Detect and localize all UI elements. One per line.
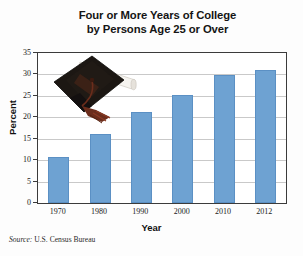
x-tick-label-2000: 2000 <box>159 207 205 216</box>
y-tick-label-25: 25 <box>4 90 31 99</box>
chart-title: Four or More Years of College by Persons… <box>30 8 285 36</box>
x-tick-label-1990: 1990 <box>117 207 163 216</box>
chart-figure: Four or More Years of College by Persons… <box>0 0 303 256</box>
source-prefix: Source: <box>9 235 32 244</box>
source-note: Source: U.S. Census Bureau <box>9 235 95 244</box>
y-tick-label-30: 30 <box>4 69 31 78</box>
y-tick <box>33 116 37 117</box>
bar-1990 <box>131 112 152 203</box>
bar-2010 <box>214 75 235 203</box>
y-tick-label-35: 35 <box>4 48 31 57</box>
bar-1970 <box>48 157 69 203</box>
bar-1980 <box>90 134 111 203</box>
chart-title-line-2: by Persons Age 25 or Over <box>30 22 285 36</box>
x-axis-label: Year <box>34 222 269 233</box>
bar-series <box>38 53 286 203</box>
x-tick-label-2010: 2010 <box>200 207 246 216</box>
y-tick-label-0: 0 <box>4 198 31 207</box>
y-tick-label-10: 10 <box>4 155 31 164</box>
y-tick <box>33 95 37 96</box>
y-tick <box>33 181 37 182</box>
y-tick <box>33 202 37 203</box>
y-tick <box>33 159 37 160</box>
y-tick <box>33 138 37 139</box>
plot-area <box>37 52 287 204</box>
source-body: U.S. Census Bureau <box>32 235 95 244</box>
y-tick-label-20: 20 <box>4 112 31 121</box>
x-tick-label-1980: 1980 <box>76 207 122 216</box>
bar-2012 <box>255 70 276 203</box>
bar-2000 <box>172 95 193 203</box>
y-tick <box>33 73 37 74</box>
y-tick <box>33 52 37 53</box>
x-tick-label-1970: 1970 <box>35 207 81 216</box>
chart-title-line-1: Four or More Years of College <box>30 8 285 22</box>
x-tick-label-2012: 2012 <box>241 207 287 216</box>
y-tick-label-5: 5 <box>4 176 31 185</box>
y-tick-label-15: 15 <box>4 133 31 142</box>
